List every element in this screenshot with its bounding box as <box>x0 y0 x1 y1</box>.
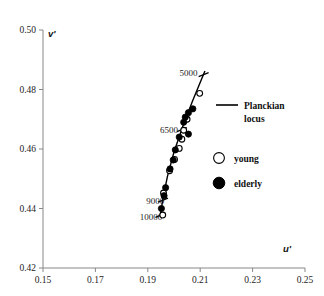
y-tick-label: 0.48 <box>19 85 36 95</box>
x-tick-label: 0.17 <box>87 275 104 285</box>
data-point-elderly[interactable] <box>163 185 169 191</box>
data-point-elderly[interactable] <box>161 193 167 199</box>
legend-marker-elderly <box>213 177 225 189</box>
legend-marker-young <box>214 153 225 164</box>
x-tick-label: 0.15 <box>35 275 52 285</box>
chart-figure: 0.420.440.460.480.500.150.170.190.210.23… <box>0 0 324 296</box>
y-tick-label: 0.46 <box>19 144 36 154</box>
y-tick-label: 0.42 <box>19 263 36 273</box>
x-tick-label: 0.23 <box>244 275 261 285</box>
x-tick-label: 0.21 <box>192 275 209 285</box>
data-point-elderly[interactable] <box>185 131 191 137</box>
x-tick-label: 0.25 <box>297 275 314 285</box>
data-point-elderly[interactable] <box>172 147 178 153</box>
legend-label-planckian-line2: locus <box>244 114 265 124</box>
cct-label: 10000 <box>140 212 163 222</box>
data-point-elderly[interactable] <box>167 166 173 172</box>
y-tick-label: 0.50 <box>19 25 36 35</box>
y-tick-label: 0.44 <box>19 204 36 214</box>
data-point-young[interactable] <box>160 212 166 218</box>
cct-label: 6500 <box>160 125 179 135</box>
data-point-young[interactable] <box>197 90 203 96</box>
data-point-elderly[interactable] <box>181 119 187 125</box>
x-axis-label: u' <box>283 243 292 254</box>
x-tick-label: 0.19 <box>139 275 156 285</box>
y-axis-label: v' <box>48 28 56 39</box>
cct-label: 5000 <box>180 68 199 78</box>
data-point-elderly[interactable] <box>176 134 182 140</box>
data-point-elderly[interactable] <box>170 157 176 163</box>
data-point-elderly[interactable] <box>158 205 164 211</box>
legend-label-elderly: elderly <box>234 179 262 189</box>
legend-label-planckian-line1: Planckian <box>244 101 285 111</box>
legend-label-young: young <box>234 154 259 164</box>
chromaticity-scatter-plot: 0.420.440.460.480.500.150.170.190.210.23… <box>0 0 324 296</box>
